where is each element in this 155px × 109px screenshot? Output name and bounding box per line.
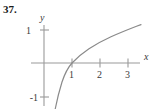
- figure-container: 37. y x 1 2 3 1 -1: [0, 0, 155, 109]
- y-axis-label: y: [39, 12, 45, 23]
- x-axis-label: x: [143, 51, 149, 62]
- y-tick-label-neg1: -1: [30, 92, 38, 103]
- x-tick-label-2: 2: [97, 69, 102, 80]
- x-tick-label-3: 3: [125, 69, 130, 80]
- exercise-number: 37.: [3, 3, 17, 15]
- x-tick-label-1: 1: [69, 69, 74, 80]
- y-tick-label-1: 1: [26, 25, 31, 36]
- graph-svg: y x 1 2 3 1 -1: [0, 0, 155, 109]
